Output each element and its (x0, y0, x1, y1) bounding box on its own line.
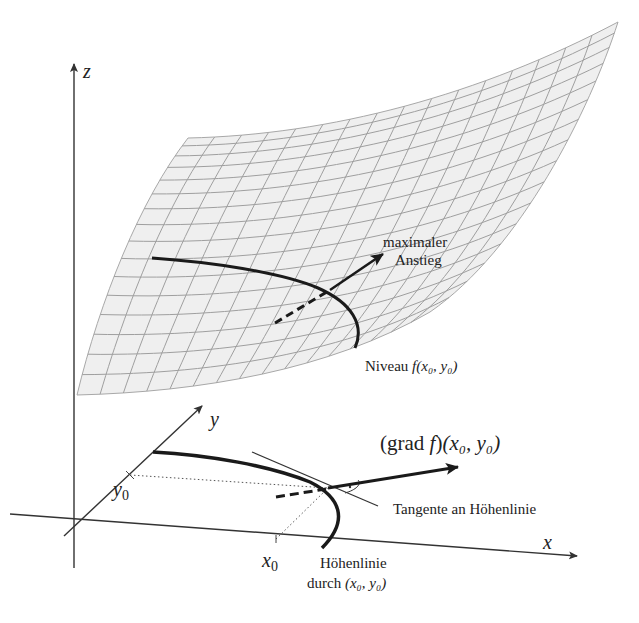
x-axis (10, 514, 577, 556)
projection-lines (130, 475, 328, 539)
gradient-dashed (276, 489, 326, 497)
contour-label-line2: durch (x₀, y₀) (307, 575, 386, 592)
y0-tick-label: y0 (111, 478, 129, 503)
gradient-label: (grad f)(x₀, y₀) (380, 431, 500, 455)
gradient-diagram: z y x y0 x0 maximaler Anstieg Niveau f(x… (0, 0, 639, 623)
level-label: Niveau f(x₀, y₀) (365, 358, 458, 375)
tangent-label: Tangente an Höhenlinie (393, 501, 536, 517)
tangent-line (252, 452, 378, 506)
z-axis-label: z (82, 60, 91, 82)
y-axis (64, 406, 202, 536)
max-ascent-label-line1: maximaler (383, 234, 447, 250)
gradient-arrow[interactable] (328, 467, 458, 488)
x-axis-label: x (542, 531, 552, 553)
contour-label-line1: Höhenlinie (320, 555, 387, 571)
surface (77, 22, 618, 395)
x0-tick-label: x0 (261, 549, 278, 574)
max-ascent-label-line2: Anstieg (395, 252, 442, 268)
contour-line (153, 452, 339, 548)
y-axis-label: y (208, 408, 219, 431)
